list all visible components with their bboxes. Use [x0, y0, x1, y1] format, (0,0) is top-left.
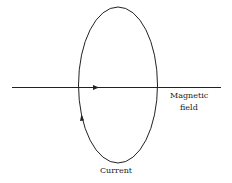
current-loop: [79, 7, 158, 163]
current-label: Current: [100, 166, 132, 176]
field-arrow-icon: [93, 85, 99, 90]
current-arrow-icon: [80, 114, 84, 121]
magnetic-field-label-line1: Magnetic: [170, 91, 208, 101]
magnetic-field-label-line2: field: [180, 103, 198, 113]
